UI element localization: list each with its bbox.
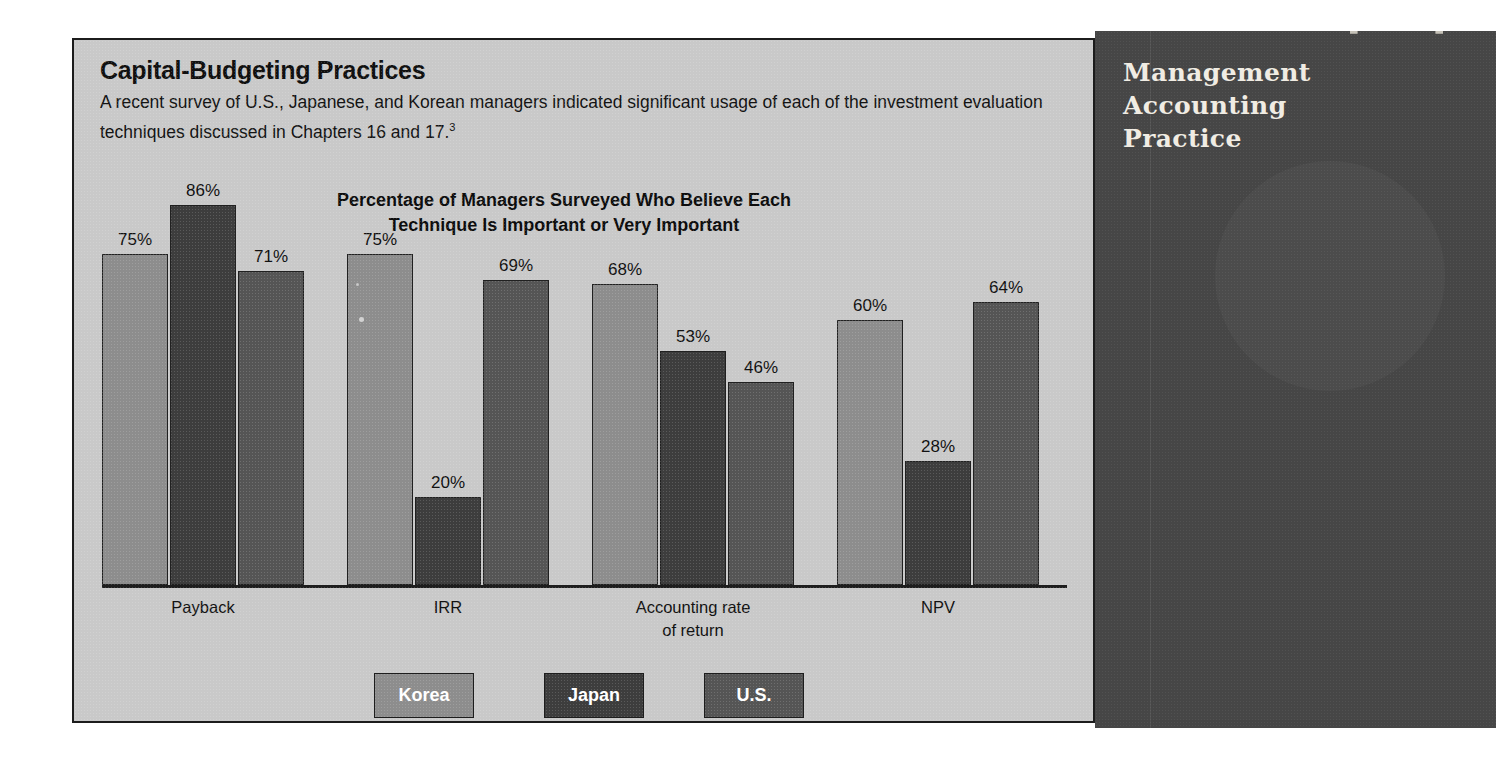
map-heading-line-2: Accounting	[1123, 89, 1311, 122]
bar-group-3	[592, 240, 794, 585]
x-axis-line	[102, 585, 1067, 588]
chart-title-line-1: Percentage of Managers Surveyed Who Beli…	[204, 188, 924, 213]
legend-item-label: Japan	[568, 685, 620, 706]
bar-group-1	[102, 240, 304, 585]
bar-japan-accounting-rate-of-return	[660, 351, 726, 585]
bar-group-2	[347, 240, 549, 585]
map-heading-line-3: Practice	[1123, 122, 1311, 155]
bar-group-4	[837, 240, 1039, 585]
bar-korea-irr	[347, 254, 413, 586]
capital-budgeting-panel: Capital-Budgeting Practices A recent sur…	[72, 38, 1095, 723]
legend-item-us[interactable]: U.S.	[704, 673, 804, 718]
bar-chart-plot-area: 75%86%71%75%20%69%68%53%46%60%28%64%	[102, 240, 1067, 585]
page-root: Management Accounting Practice M.A.P. Ca…	[0, 0, 1496, 768]
bar-us-payback	[238, 271, 304, 585]
watermark-circle	[1215, 161, 1445, 391]
map-sidebar-panel: Management Accounting Practice M.A.P.	[1095, 31, 1496, 728]
map-sidebar-heading: Management Accounting Practice	[1123, 56, 1311, 155]
intro-paragraph: A recent survey of U.S., Japanese, and K…	[100, 90, 1075, 145]
bar-us-accounting-rate-of-return	[728, 382, 794, 585]
chart-title-line-2: Technique Is Important or Very Important	[204, 213, 924, 238]
chart-title: Percentage of Managers Surveyed Who Beli…	[204, 188, 924, 238]
bar-korea-npv	[837, 320, 903, 585]
bar-us-irr	[483, 280, 549, 585]
bar-japan-irr	[415, 497, 481, 585]
page-title: Capital-Budgeting Practices	[100, 56, 425, 85]
bar-japan-npv	[905, 461, 971, 585]
legend-item-korea[interactable]: Korea	[374, 673, 474, 718]
footnote-marker: 3	[449, 121, 455, 133]
bar-us-npv	[973, 302, 1039, 585]
bar-korea-payback	[102, 254, 168, 586]
category-label-line-1: Accounting rate	[592, 596, 794, 619]
bar-korea-accounting-rate-of-return	[592, 284, 658, 585]
chart-legend: KoreaJapanU.S.	[74, 665, 1093, 725]
category-label-line-1: IRR	[347, 596, 549, 619]
legend-item-japan[interactable]: Japan	[544, 673, 644, 718]
speck-mark	[356, 283, 359, 286]
intro-line-1: A recent survey of U.S., Japanese, and K…	[100, 92, 958, 112]
category-label-1: Payback	[102, 596, 304, 619]
category-label-3: Accounting rateof return	[592, 596, 794, 642]
speck-mark	[359, 317, 364, 322]
category-label-line-1: Payback	[102, 596, 304, 619]
map-vertical-label: M.A.P.	[1323, 31, 1483, 39]
category-label-2: IRR	[347, 596, 549, 619]
bar-value-label: 86%	[170, 181, 236, 201]
category-label-line-1: NPV	[837, 596, 1039, 619]
bar-japan-payback	[170, 205, 236, 585]
category-label-4: NPV	[837, 596, 1039, 619]
legend-item-label: U.S.	[736, 685, 771, 706]
map-heading-line-1: Management	[1123, 56, 1311, 89]
legend-item-label: Korea	[398, 685, 449, 706]
category-label-line-2: of return	[592, 619, 794, 642]
